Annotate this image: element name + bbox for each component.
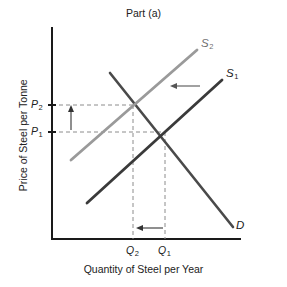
- supply-curve-s2-label: S2: [201, 38, 213, 51]
- price-2-label: P2: [31, 99, 43, 112]
- demand-curve-label: D: [236, 220, 244, 232]
- supply-shift-arrow-head: [170, 83, 177, 89]
- demand-curve: [110, 73, 233, 227]
- supply-curve-s1: [87, 80, 222, 203]
- plot-area: [0, 0, 287, 287]
- supply-demand-figure: Part (a) Price of Steel per Tonne Quanti…: [0, 0, 287, 287]
- price-increase-arrow-head: [68, 105, 74, 112]
- price-1-label: P1: [31, 126, 43, 139]
- quantity-2-label: Q2: [126, 245, 139, 258]
- supply-curve-s1-label: S1: [226, 68, 238, 81]
- quantity-1-label: Q1: [158, 245, 171, 258]
- quantity-decrease-arrow-head: [136, 225, 143, 231]
